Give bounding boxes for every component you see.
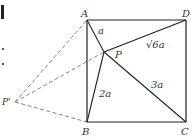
length-pa: a [98,25,104,36]
segment-pprime-a [15,20,87,102]
segment-pprime-b [15,102,87,122]
segment-pprime-p [15,52,104,102]
label-a: A [80,8,88,19]
label-c: C [181,126,189,137]
segment-pb [87,52,104,122]
length-pb: 2a [98,88,111,99]
label-p: P [114,49,122,60]
segment-pc [104,52,186,122]
label-p-prime: P' [1,97,11,107]
length-pd: √6a [146,39,165,50]
label-d: D [181,8,190,19]
geometry-diagram: A D B C P P' a √6a 2a 3a [0,0,194,139]
segment-pd [104,20,186,52]
length-pc: 3a [151,79,163,90]
label-b: B [81,126,89,137]
